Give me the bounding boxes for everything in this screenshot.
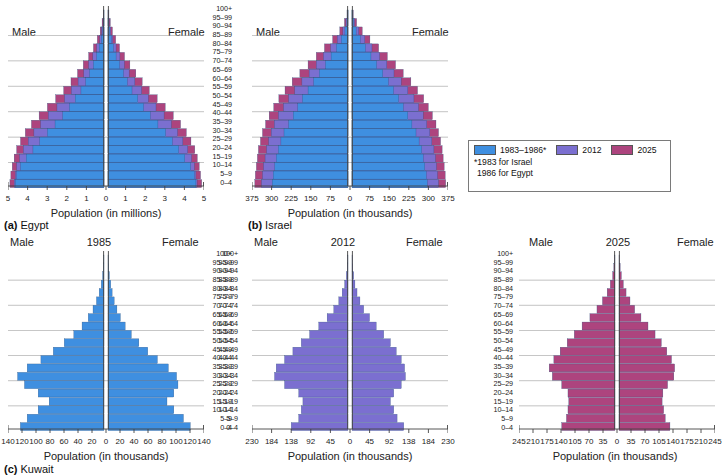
axis-tick-label: 0 xyxy=(348,194,352,203)
axis-tick-label: 1 xyxy=(123,194,127,203)
kuwait2012-axis-title: Population (in thousands) xyxy=(252,450,448,462)
kuwait2012-year-label: 2012 xyxy=(308,236,378,248)
israel-caption-tag: (b) xyxy=(248,219,262,231)
kuwait2025-tick-labels: 245210175140105703503570105140175210245 xyxy=(519,437,715,449)
kuwait1985-year-label: 1985 xyxy=(64,236,134,248)
kuwait2012-male-label: Male xyxy=(254,236,278,248)
kuwait1985-axis-title: Population (in thousands) xyxy=(8,450,204,462)
axis-tick-label: 120 xyxy=(183,437,196,446)
legend-label-2025: 2025 xyxy=(637,145,656,155)
panel-kuwait-1985: Male 1985 Female 100+95–9990–9485–8980–8… xyxy=(0,236,240,475)
axis-tick-label: 210 xyxy=(694,437,707,446)
axis-tick-label: 100 xyxy=(29,437,42,446)
axis-tick-label: 60 xyxy=(144,437,153,446)
axis-tick-label: 105 xyxy=(568,437,581,446)
panel-egypt: Male Female 100+95–9990–9485–8980–8475–7… xyxy=(0,0,240,230)
axis-tick-label: 60 xyxy=(60,437,69,446)
egypt-plot xyxy=(8,6,204,192)
egypt-tick-labels: 54321012345 xyxy=(8,194,204,206)
legend-label-1983-1986: 1983–1986* xyxy=(500,145,546,155)
axis-tick-label: 20 xyxy=(88,437,97,446)
age-label: 0–4 xyxy=(208,424,238,433)
kuwait2025-axis-title: Population (in thousands) xyxy=(515,450,715,462)
axis-tick-label: 105 xyxy=(652,437,665,446)
axis-tick-label: 20 xyxy=(116,437,125,446)
axis-tick-label: 0 xyxy=(104,194,108,203)
axis-tick-label: 4 xyxy=(182,194,186,203)
axis-tick-label: 92 xyxy=(306,437,315,446)
axis-tick-label: 4 xyxy=(25,194,29,203)
axis-tick-label: 175 xyxy=(680,437,693,446)
kuwait2012-age-labels: 100+95–9990–9485–8980–8475–7970–7465–696… xyxy=(208,250,238,432)
israel-axis-title: Population (in thousands) xyxy=(252,207,448,219)
legend: 1983–1986* 2012 2025 *1983 for Israel 19… xyxy=(468,140,671,192)
egypt-caption-name: Egypt xyxy=(21,219,49,231)
israel-plot xyxy=(252,6,448,192)
axis-tick-label: 35 xyxy=(599,437,608,446)
axis-tick-label: 140 xyxy=(554,437,567,446)
kuwait2025-age-labels: 100+95–9990–9485–8980–8475–7970–7465–696… xyxy=(483,250,513,432)
axis-tick-label: 140 xyxy=(666,437,679,446)
axis-tick-label: 0 xyxy=(104,437,108,446)
axis-tick-label: 375 xyxy=(441,194,454,203)
axis-tick-label: 120 xyxy=(15,437,28,446)
axis-tick-label: 184 xyxy=(422,437,435,446)
axis-tick-label: 40 xyxy=(130,437,139,446)
israel-caption-name: Israel xyxy=(265,219,292,231)
axis-tick-label: 92 xyxy=(385,437,394,446)
egypt-caption: (a) Egypt xyxy=(4,219,49,231)
legend-swatch-1983-1986 xyxy=(474,145,496,155)
kuwait2012-plot xyxy=(252,251,448,435)
legend-label-2012: 2012 xyxy=(582,145,601,155)
kuwait2025-plot xyxy=(519,251,715,435)
axis-tick-label: 184 xyxy=(265,437,278,446)
axis-tick-label: 210 xyxy=(526,437,539,446)
axis-tick-label: 140 xyxy=(197,437,210,446)
kuwait-caption-name: Kuwait xyxy=(21,463,54,475)
axis-tick-label: 230 xyxy=(441,437,454,446)
axis-tick-label: 70 xyxy=(585,437,594,446)
axis-tick-label: 2 xyxy=(143,194,147,203)
panel-kuwait-2012: 100+95–9990–9485–8980–8475–7970–7465–696… xyxy=(244,236,484,475)
axis-tick-label: 3 xyxy=(163,194,167,203)
axis-tick-label: 0 xyxy=(348,437,352,446)
axis-tick-label: 225 xyxy=(402,194,415,203)
axis-tick-label: 0 xyxy=(615,437,619,446)
axis-tick-label: 150 xyxy=(383,194,396,203)
axis-tick-label: 40 xyxy=(74,437,83,446)
egypt-age-labels: 100+95–9990–9485–8980–8475–7970–7465–696… xyxy=(202,5,232,187)
axis-tick-label: 300 xyxy=(422,194,435,203)
age-label: 0–4 xyxy=(483,424,513,433)
egypt-caption-tag: (a) xyxy=(4,219,17,231)
kuwait1985-female-label: Female xyxy=(162,236,199,248)
age-label: 0–4 xyxy=(202,179,232,188)
legend-swatch-2025 xyxy=(611,145,633,155)
axis-tick-label: 5 xyxy=(6,194,10,203)
axis-tick-label: 375 xyxy=(245,194,258,203)
axis-tick-label: 225 xyxy=(285,194,298,203)
axis-tick-label: 45 xyxy=(326,437,335,446)
axis-tick-label: 2 xyxy=(65,194,69,203)
axis-tick-label: 3 xyxy=(45,194,49,203)
kuwait2012-tick-labels: 230184138924504592138184230 xyxy=(252,437,448,449)
kuwait-caption: (c) Kuwait xyxy=(4,463,54,475)
israel-tick-labels: 37530022515075075150225300375 xyxy=(252,194,448,206)
legend-items-row: 1983–1986* 2012 2025 xyxy=(469,141,670,156)
axis-tick-label: 35 xyxy=(627,437,636,446)
axis-tick-label: 5 xyxy=(202,194,206,203)
panel-kuwait-2025: 100+95–9990–9485–8980–8475–7970–7465–696… xyxy=(487,236,723,475)
kuwait2025-male-label: Male xyxy=(529,236,553,248)
axis-tick-label: 80 xyxy=(46,437,55,446)
axis-tick-label: 175 xyxy=(540,437,553,446)
legend-note: *1983 for Israel 1986 for Egypt xyxy=(469,156,670,182)
axis-tick-label: 230 xyxy=(245,437,258,446)
egypt-axis-title: Population (in millions) xyxy=(8,207,204,219)
panel-israel: Male Female 3753002251507507515022530037… xyxy=(244,0,484,230)
kuwait2025-female-label: Female xyxy=(677,236,714,248)
axis-tick-label: 1 xyxy=(84,194,88,203)
axis-tick-label: 45 xyxy=(365,437,374,446)
kuwait2025-year-label: 2025 xyxy=(583,236,653,248)
kuwait1985-tick-labels: 14012010080604020020406080100120140 xyxy=(8,437,204,449)
kuwait-caption-tag: (c) xyxy=(4,463,17,475)
legend-note-line1: *1983 for Israel xyxy=(474,157,665,168)
